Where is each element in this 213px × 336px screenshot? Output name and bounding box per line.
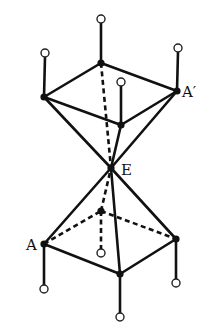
edge-upper-back-E-hidden [101,63,111,168]
edge-upper-back-aprime [101,63,177,91]
vertex-upper-left [40,93,47,100]
vertex-lower-right [172,235,179,242]
open-circle-icon [174,44,182,52]
edge-lower-right-front [120,239,176,274]
open-circle-icon [97,249,105,257]
edge-lower-front-E [111,168,120,274]
open-circle-icon [116,313,124,321]
lower-lateral-edges [44,168,176,274]
vertex-upper-back [97,59,104,66]
open-circle-icon [41,49,49,57]
label-E: E [121,161,132,179]
label-A: A [25,236,37,254]
edge-upper-aprime-front [121,91,177,125]
open-circle-icon [40,285,48,293]
upper-lateral-edges [44,63,177,168]
leg-upper-aprime [177,52,178,91]
edge-upper-left-E [44,97,111,168]
edge-lower-A-back-hidden [44,211,101,244]
vertex-upper-front [117,121,124,128]
open-circle-icon [97,15,105,23]
open-circle-icon [117,78,125,86]
edge-lower-front-A [44,244,120,274]
vertices [40,59,180,277]
edge-upper-left-back [44,63,101,97]
leg-upper-left [44,57,45,97]
vertex-A [40,240,47,247]
label-A-prime: A′ [181,83,197,101]
vertex-lower-front [116,270,123,277]
vertex-E [107,164,114,171]
double-pyramid-diagram: A′ E A [0,0,213,336]
vertex-lower-back [97,207,104,214]
vertex-A-prime [173,87,180,94]
open-circle-icon [172,279,180,287]
